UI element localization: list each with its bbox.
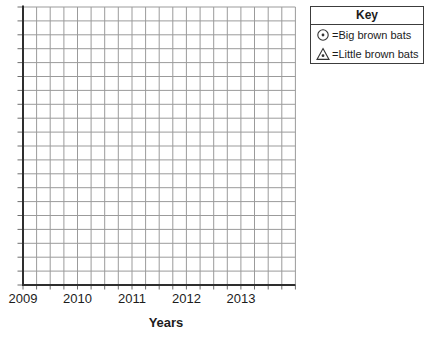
bat-population-graph: 20092010201120122013 Years Key =Big brow…: [0, 0, 430, 343]
legend-item-big-brown-bats: =Big brown bats: [311, 25, 423, 44]
x-axis-title: Years: [149, 315, 184, 330]
x-axis-tick-label: 2012: [172, 291, 201, 306]
legend-item-label: =Big brown bats: [332, 29, 411, 41]
legend-item-little-brown-bats: =Little brown bats: [311, 44, 423, 63]
legend-item-label: =Little brown bats: [332, 48, 419, 60]
x-axis-tick-label: 2013: [226, 291, 255, 306]
circle-dot-marker-icon: [316, 28, 330, 42]
x-axis-tick-label: 2010: [63, 291, 92, 306]
legend-title: Key: [311, 7, 423, 25]
legend-box: Key =Big brown bats =Little brown bats: [310, 6, 424, 64]
x-axis-tick-label: 2009: [9, 291, 38, 306]
triangle-dot-marker-icon: [316, 47, 330, 61]
x-axis-tick-label: 2011: [118, 291, 146, 306]
